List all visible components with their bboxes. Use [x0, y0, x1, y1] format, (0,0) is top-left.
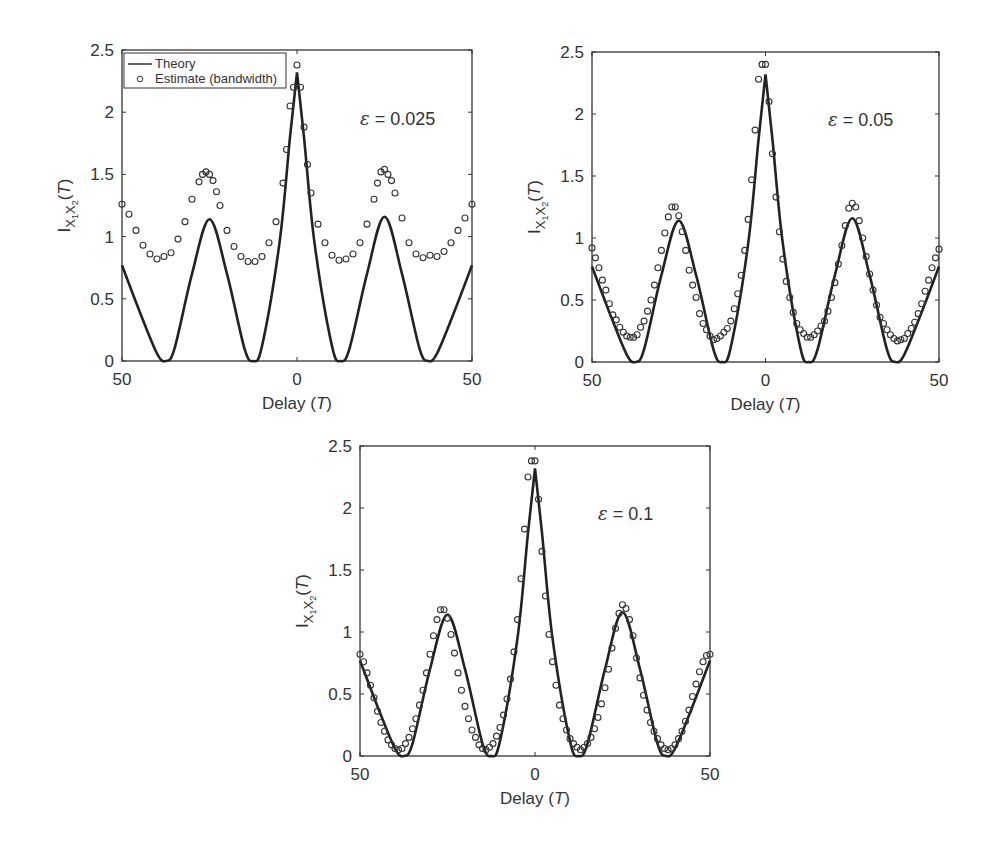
- estimate-marker: [455, 670, 461, 676]
- estimate-marker: [683, 247, 689, 253]
- x-tick-label: 0: [761, 371, 770, 390]
- y-tick-label: 2: [105, 103, 114, 122]
- x-axis-label: Delay (T): [731, 395, 801, 414]
- estimate-marker: [259, 254, 265, 260]
- y-tick-label: 0: [105, 352, 114, 371]
- estimate-marker: [364, 221, 370, 227]
- estimate-marker: [595, 715, 601, 721]
- x-tick-label: 50: [701, 765, 720, 784]
- estimate-marker: [452, 650, 458, 656]
- estimate-marker: [887, 332, 893, 338]
- x-tick-label: 50: [583, 371, 602, 390]
- estimate-marker: [214, 189, 220, 195]
- estimate-marker: [638, 324, 644, 330]
- estimate-marker: [731, 306, 737, 312]
- epsilon-annotation: ε = 0.1: [598, 503, 653, 524]
- legend: TheoryEstimate (bandwidth): [124, 53, 286, 88]
- y-tick-label: 1.5: [328, 561, 352, 580]
- estimate-marker: [273, 219, 279, 225]
- estimate-marker: [161, 254, 167, 260]
- estimate-marker: [410, 726, 416, 732]
- estimate-marker: [721, 329, 727, 335]
- estimate-marker: [427, 252, 433, 258]
- estimate-marker: [462, 215, 468, 221]
- estimate-marker: [686, 267, 692, 273]
- estimate-marker: [448, 631, 454, 637]
- estimate-marker: [224, 227, 230, 233]
- y-axis-label: IX1X2(T): [55, 179, 80, 233]
- estimate-marker: [336, 257, 342, 263]
- estimate-marker: [476, 742, 482, 748]
- estimate-marker: [641, 318, 647, 324]
- estimate-marker: [196, 179, 202, 185]
- estimate-marker: [371, 196, 377, 202]
- estimate-marker: [728, 318, 734, 324]
- estimate-marker: [665, 214, 671, 220]
- estimate-marker: [693, 295, 699, 301]
- estimate-marker: [459, 687, 465, 693]
- y-tick-label: 2.5: [90, 41, 114, 60]
- estimate-marker: [933, 255, 939, 261]
- estimate-marker: [926, 277, 932, 283]
- chart-panel-eps-01: 00.511.522.550050Delay (T)IX1X2(T)ε = 0.…: [293, 437, 719, 808]
- estimate-marker: [350, 251, 356, 257]
- estimate-marker: [210, 178, 216, 184]
- estimate-marker: [399, 215, 405, 221]
- estimate-marker: [252, 258, 258, 264]
- estimate-marker: [908, 326, 914, 332]
- estimate-marker: [375, 180, 381, 186]
- estimate-marker: [662, 746, 668, 752]
- estimate-marker: [322, 240, 328, 246]
- x-tick-label: 0: [292, 370, 301, 389]
- estimate-marker: [797, 327, 803, 333]
- epsilon-annotation: ε = 0.05: [828, 109, 893, 130]
- estimate-marker: [693, 681, 699, 687]
- x-tick-label: 50: [351, 765, 370, 784]
- estimate-marker: [592, 255, 598, 261]
- estimate-marker: [853, 204, 859, 210]
- estimate-marker: [603, 287, 609, 293]
- estimate-marker: [849, 200, 855, 206]
- estimate-marker: [690, 693, 696, 699]
- y-tick-label: 2: [343, 499, 352, 518]
- estimate-marker: [140, 242, 146, 248]
- legend-theory-label: Theory: [155, 56, 196, 71]
- estimate-marker: [434, 617, 440, 623]
- estimate-marker: [620, 329, 626, 335]
- figure: 00.511.522.550050Delay (T)IX1X2(T)ε = 0.…: [0, 0, 985, 846]
- estimate-marker: [525, 474, 531, 480]
- estimate-marker: [613, 317, 619, 323]
- estimate-marker: [606, 666, 612, 672]
- estimate-marker: [455, 227, 461, 233]
- x-axis-label: Delay (T): [262, 394, 332, 413]
- y-tick-label: 2.5: [328, 437, 352, 456]
- estimate-marker: [651, 282, 657, 288]
- estimate-marker: [697, 311, 703, 317]
- plot-frame: [592, 52, 939, 362]
- estimate-marker: [801, 330, 807, 336]
- estimate-marker: [658, 247, 664, 253]
- estimate-marker: [420, 255, 426, 261]
- estimate-marker: [413, 251, 419, 257]
- estimate-marker: [665, 747, 671, 753]
- estimate-marker: [294, 62, 300, 68]
- estimate-marker: [620, 602, 626, 608]
- estimate-marker: [315, 221, 321, 227]
- estimate-marker: [266, 240, 272, 246]
- estimate-marker: [133, 227, 139, 233]
- y-tick-label: 1: [343, 623, 352, 642]
- estimate-marker: [898, 337, 904, 343]
- estimate-marker: [473, 734, 479, 740]
- estimate-marker: [704, 653, 710, 659]
- estimate-marker: [217, 203, 223, 209]
- estimate-marker: [596, 265, 602, 271]
- estimate-marker: [189, 196, 195, 202]
- y-tick-label: 0.5: [328, 685, 352, 704]
- estimate-marker: [462, 703, 468, 709]
- plot-frame: [360, 446, 710, 756]
- y-tick-label: 2: [575, 105, 584, 124]
- y-tick-label: 0.5: [560, 291, 584, 310]
- estimate-marker: [856, 218, 862, 224]
- legend-estimate-label: Estimate (bandwidth): [155, 71, 277, 86]
- plot-frame: [122, 50, 472, 361]
